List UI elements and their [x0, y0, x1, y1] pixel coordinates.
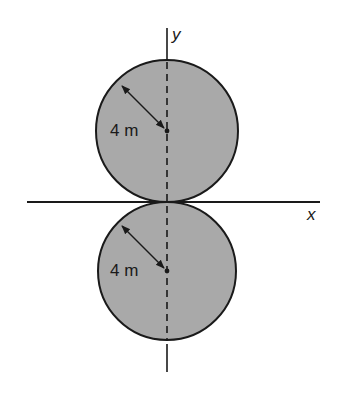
x-axis-label: x — [306, 205, 316, 224]
y-axis-label: y — [171, 25, 182, 44]
lower-center-point — [165, 269, 170, 274]
diagram-canvas: 4 m 4 m y x — [0, 0, 344, 393]
upper-center-point — [165, 129, 170, 134]
upper-radius-label: 4 m — [110, 121, 138, 140]
lower-radius-label: 4 m — [110, 261, 138, 280]
